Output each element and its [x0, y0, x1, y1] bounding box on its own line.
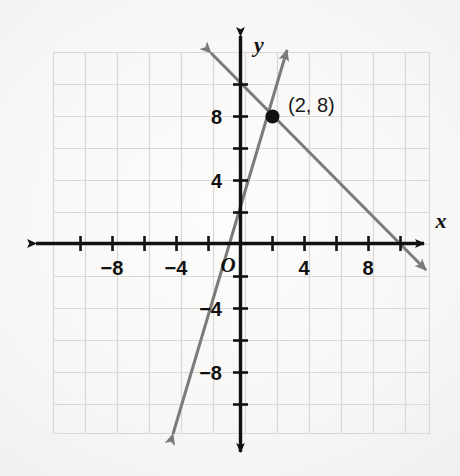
x-tick-label-8: 8 [362, 257, 373, 279]
y-tick-label-8: 8 [211, 106, 222, 128]
x-tick-label-neg8: −8 [101, 257, 124, 279]
x-tick-label-neg4: −4 [165, 257, 189, 279]
y-axis-name: y [251, 32, 264, 57]
y-tick-label-neg8: −8 [199, 362, 222, 384]
graph-figure: −8 −4 4 8 8 4 −4 −8 O y x (2, 8) [0, 0, 460, 476]
origin-label: O [220, 253, 235, 277]
x-tick-label-4: 4 [298, 257, 310, 279]
plotted-point-2-8 [266, 110, 280, 124]
coordinate-plane: −8 −4 4 8 8 4 −4 −8 O y x (2, 8) [0, 0, 460, 476]
axes-layer [36, 36, 424, 452]
y-tick-label-4: 4 [211, 170, 223, 192]
x-axis-name: x [435, 208, 447, 233]
point-label-2-8: (2, 8) [288, 94, 335, 116]
y-tick-label-neg4: −4 [199, 298, 223, 320]
